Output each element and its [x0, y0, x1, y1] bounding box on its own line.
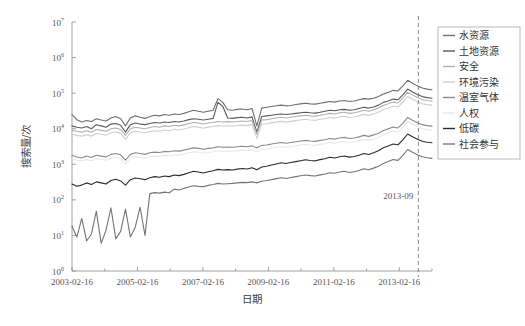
axis-frame: [72, 22, 432, 271]
x-tick-label: 2005-02-16: [116, 277, 158, 287]
y-tick-label: 104: [52, 123, 64, 134]
y-tick-label: 106: [52, 52, 64, 63]
chart-container: 1001011021031041051061072003-02-162005-0…: [0, 0, 525, 326]
annotation-label: 2013-09: [383, 191, 413, 201]
y-tick-label: 101: [52, 230, 64, 241]
legend-label-3: 环境污染: [459, 76, 499, 88]
legend-label-0: 水资源: [459, 29, 489, 41]
y-tick-label: 102: [52, 194, 64, 205]
x-axis-title: 日期: [242, 293, 262, 305]
legend-label-6: 低碳: [459, 122, 479, 134]
series-line-0: [72, 80, 432, 126]
line-chart: 1001011021031041051061072003-02-162005-0…: [0, 0, 525, 326]
x-tick-label: 2011-02-16: [313, 277, 355, 287]
series-line-5: [72, 121, 432, 163]
x-tick-label: 2003-02-16: [51, 277, 93, 287]
legend-label-2: 安全: [459, 60, 479, 72]
y-tick-label: 103: [52, 159, 64, 170]
legend-label-5: 人权: [459, 107, 479, 119]
series-line-2: [72, 92, 432, 135]
x-tick-label: 2007-02-16: [182, 277, 224, 287]
y-axis-title: 搜索量/次: [20, 124, 32, 169]
legend-label-4: 温室气体: [459, 91, 499, 103]
x-tick-label: 2013-02-16: [378, 277, 420, 287]
legend-label-7: 社会参与: [459, 138, 499, 150]
y-tick-label: 107: [52, 17, 64, 28]
y-tick-label: 105: [52, 88, 64, 99]
y-tick-label: 100: [52, 266, 64, 277]
x-tick-label: 2009-02-16: [247, 277, 289, 287]
legend-label-1: 土地资源: [459, 45, 499, 57]
